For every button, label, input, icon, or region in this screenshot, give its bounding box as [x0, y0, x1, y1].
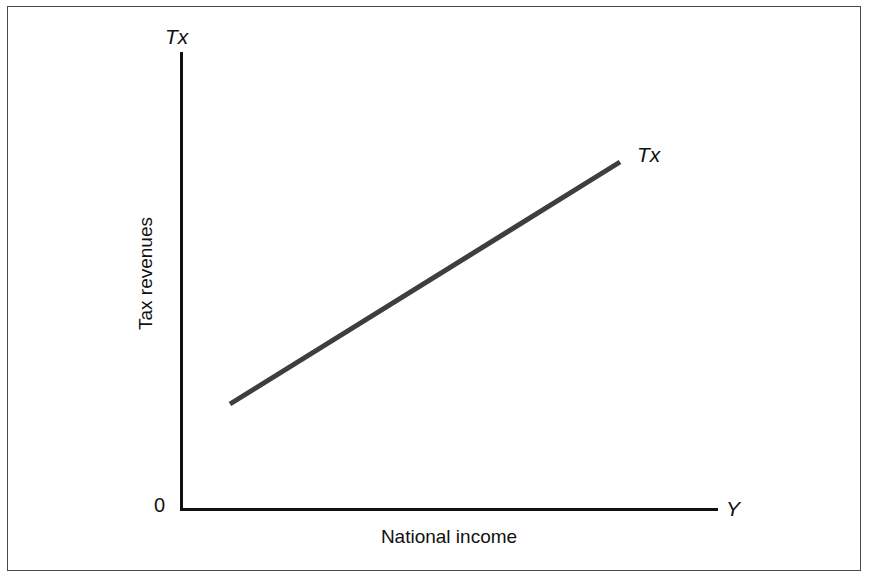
plot-area: [0, 0, 870, 580]
figure-canvas: Tx Y 0 National income Tax revenues Tx: [0, 0, 870, 580]
tax-revenue-line: [230, 162, 620, 404]
tax-revenue-line-label: Tx: [637, 144, 660, 165]
